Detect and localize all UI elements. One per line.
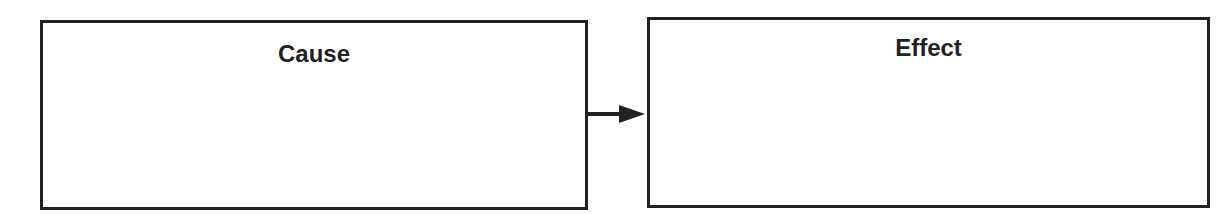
cause-box: Cause bbox=[40, 20, 588, 210]
effect-box: Effect bbox=[647, 17, 1210, 208]
cause-title: Cause bbox=[43, 40, 585, 68]
effect-title: Effect bbox=[650, 34, 1207, 62]
arrow-right-icon bbox=[587, 102, 647, 126]
